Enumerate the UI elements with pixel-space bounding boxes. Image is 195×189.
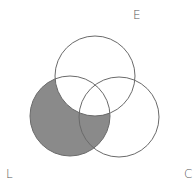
label-c: C xyxy=(184,167,192,181)
label-e: E xyxy=(133,8,141,22)
label-l: L xyxy=(6,167,13,181)
venn-svg xyxy=(0,0,195,189)
venn-diagram: E L C xyxy=(0,0,195,189)
shaded-region-l-minus-e xyxy=(0,0,195,189)
